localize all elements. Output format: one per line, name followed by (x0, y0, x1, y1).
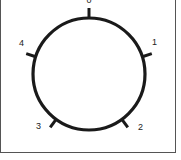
position-label-4: 4 (19, 38, 24, 48)
dial-circle (33, 18, 145, 130)
tick-2 (122, 119, 128, 127)
position-label-2: 2 (138, 122, 143, 132)
dial-diagram: 0 1 2 3 4 (0, 0, 181, 160)
tick-3 (50, 119, 56, 127)
position-label-3: 3 (36, 121, 41, 131)
position-label-1: 1 (152, 37, 157, 47)
position-label-0: 0 (87, 0, 92, 5)
tick-4 (26, 54, 36, 57)
tick-1 (142, 54, 152, 57)
